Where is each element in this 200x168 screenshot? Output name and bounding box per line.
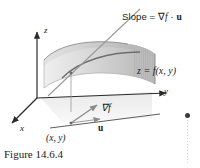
gradient-vector-label: ∇f xyxy=(101,103,111,113)
edge-bullet-dot xyxy=(185,113,190,118)
figure-container: Slope = ∇f · u z = f(x, y) z y x ∇f u (x… xyxy=(0,0,200,168)
x-axis xyxy=(12,98,37,123)
surface-equation-label: z = f(x, y) xyxy=(137,66,176,76)
figure-caption: Figure 14.6.4 xyxy=(4,148,63,160)
x-axis-label: x xyxy=(20,124,24,133)
surface-plot-diagram xyxy=(0,0,200,168)
unit-vector-label: u xyxy=(98,124,103,134)
slope-annotation-label: Slope = ∇f · u xyxy=(122,12,182,23)
y-axis-label: y xyxy=(164,87,168,96)
z-axis-label: z xyxy=(44,26,48,35)
base-point-marker xyxy=(70,122,73,125)
point-coordinates-label: (x, y) xyxy=(46,134,66,144)
edge-dotted-rule xyxy=(187,120,188,164)
surface-point-marker xyxy=(70,72,73,75)
